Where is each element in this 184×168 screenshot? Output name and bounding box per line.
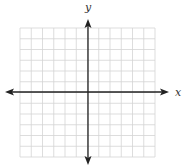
x-axis [5,89,169,96]
coordinate-plane: x y [0,0,184,168]
x-axis-label: x [175,86,182,99]
y-axis-label: y [84,1,92,14]
